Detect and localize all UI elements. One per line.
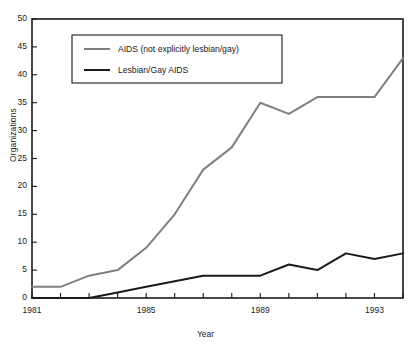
x-tick-label: 1981 xyxy=(12,305,52,315)
legend-box xyxy=(72,35,282,83)
legend-label-1: Lesbian/Gay AIDS xyxy=(118,65,188,75)
y-tick-label: 30 xyxy=(5,125,27,135)
plot-area: AIDS (not explicitly lesbian/gay)Lesbian… xyxy=(0,0,411,349)
y-tick-label: 15 xyxy=(5,208,27,218)
legend-label-0: AIDS (not explicitly lesbian/gay) xyxy=(118,44,239,54)
y-tick-label: 25 xyxy=(5,153,27,163)
y-tick-label: 40 xyxy=(5,69,27,79)
y-tick-label: 45 xyxy=(5,41,27,51)
y-tick-label: 5 xyxy=(5,264,27,274)
x-tick-label: 1985 xyxy=(126,305,166,315)
chart-figure: Organizations Year AIDS (not explicitly … xyxy=(0,0,411,349)
x-tick-label: 1993 xyxy=(354,305,394,315)
y-tick-label: 20 xyxy=(5,180,27,190)
y-tick-label: 35 xyxy=(5,97,27,107)
y-tick-label: 50 xyxy=(5,13,27,23)
y-tick-label: 10 xyxy=(5,236,27,246)
x-tick-label: 1989 xyxy=(240,305,280,315)
y-tick-label: 0 xyxy=(5,292,27,302)
